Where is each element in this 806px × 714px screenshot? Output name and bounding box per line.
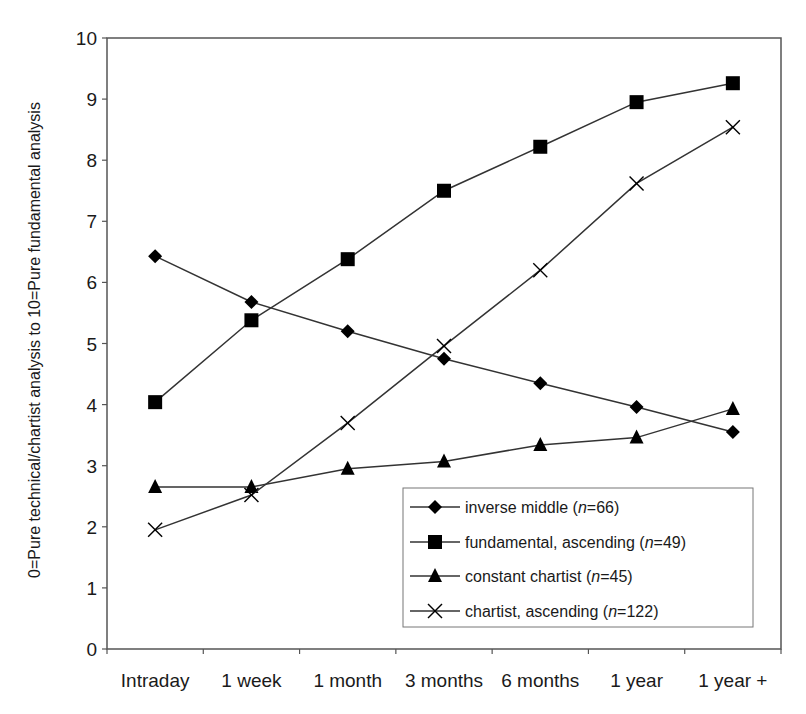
x-marker-icon — [533, 263, 547, 277]
diamond-marker-icon — [630, 400, 644, 414]
x-marker-icon — [726, 120, 740, 134]
y-tick-label: 9 — [86, 89, 97, 110]
y-tick-label: 3 — [86, 456, 97, 477]
y-tick-label: 2 — [86, 517, 97, 538]
x-tick-label: Intraday — [121, 670, 190, 691]
series-group — [148, 76, 740, 537]
square-marker-icon — [341, 252, 355, 266]
diamond-marker-icon — [533, 376, 547, 390]
x-tick-label: 6 months — [501, 670, 579, 691]
x-marker-icon — [437, 339, 451, 353]
x-tick-label: 1 week — [221, 670, 282, 691]
x-marker-icon — [630, 176, 644, 190]
square-marker-icon — [244, 313, 258, 327]
x-marker-icon — [341, 416, 355, 430]
diamond-marker-icon — [437, 352, 451, 366]
x-tick-label: 1 year + — [698, 670, 767, 691]
y-axis: 012345678910 — [76, 28, 107, 660]
x-tick-label: 1 year — [610, 670, 663, 691]
series-diamond — [148, 249, 740, 439]
x-tick-label: 1 month — [313, 670, 382, 691]
triangle-marker-icon — [726, 401, 740, 415]
legend: inverse middle (n=66)fundamental, ascend… — [403, 488, 753, 627]
y-axis-title: 0=Pure technical/chartist analysis to 10… — [26, 102, 43, 578]
y-axis-title-group: 0=Pure technical/chartist analysis to 10… — [26, 102, 43, 578]
legend-label: constant chartist (n=45) — [465, 568, 633, 585]
y-tick-label: 6 — [86, 272, 97, 293]
diamond-marker-icon — [726, 425, 740, 439]
y-tick-label: 5 — [86, 334, 97, 355]
square-marker-icon — [437, 184, 451, 198]
legend-label: chartist, ascending (n=122) — [465, 603, 658, 620]
y-tick-label: 7 — [86, 211, 97, 232]
diamond-marker-icon — [148, 249, 162, 263]
square-marker-icon — [148, 395, 162, 409]
diamond-marker-icon — [341, 324, 355, 338]
legend-label: inverse middle (n=66) — [465, 499, 619, 516]
series-triangle — [148, 401, 740, 493]
y-tick-label: 0 — [86, 639, 97, 660]
y-tick-label: 10 — [76, 28, 97, 49]
y-tick-label: 4 — [86, 395, 97, 416]
diamond-marker-icon — [244, 295, 258, 309]
line-chart: 0=Pure technical/chartist analysis to 10… — [0, 0, 806, 714]
series-line — [155, 256, 733, 432]
square-marker-icon — [533, 140, 547, 154]
series-line — [155, 409, 733, 487]
triangle-marker-icon — [148, 479, 162, 493]
x-tick-label: 3 months — [405, 670, 483, 691]
square-marker-icon — [428, 535, 442, 549]
y-tick-label: 1 — [86, 578, 97, 599]
y-tick-label: 8 — [86, 150, 97, 171]
square-marker-icon — [630, 95, 644, 109]
legend-label: fundamental, ascending (n=49) — [465, 534, 686, 551]
square-marker-icon — [726, 76, 740, 90]
series-x — [148, 120, 740, 537]
x-axis: Intraday1 week1 month3 months6 months1 y… — [107, 649, 781, 691]
x-marker-icon — [148, 523, 162, 537]
